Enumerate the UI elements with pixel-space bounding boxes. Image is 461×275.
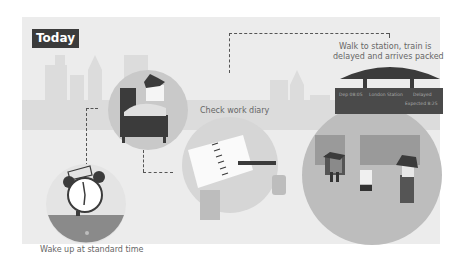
departure-time: Dep 08:05 — [339, 92, 363, 97]
step-caption-station-2: delayed and arrives packed — [333, 52, 444, 62]
departure-destination: London Station — [369, 92, 403, 97]
departure-status: Delayed — [413, 92, 432, 97]
step-caption-wake: Wake up at standard time — [40, 245, 144, 255]
departure-board: Dep 08:05 London Station Delayed Expecte… — [335, 88, 443, 114]
step-caption-diary: Check work diary — [200, 106, 269, 116]
step-caption-station-1: Walk to station, train is — [339, 42, 431, 52]
departure-expected: Expected 8:25 — [405, 101, 438, 106]
